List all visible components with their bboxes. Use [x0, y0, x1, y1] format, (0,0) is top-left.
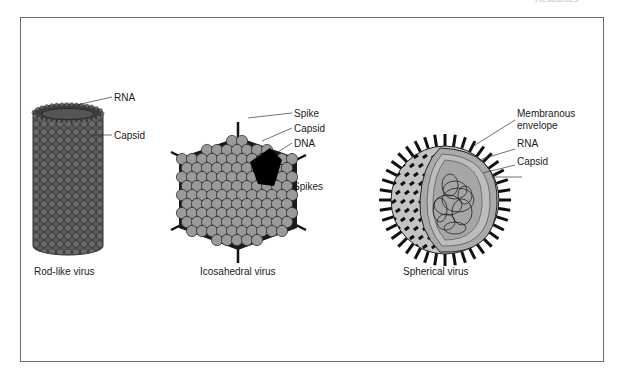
- ico-caption: Icosahedral virus: [200, 266, 276, 277]
- sph-caption: Spherical virus: [403, 266, 469, 277]
- sph-label-capsid: Capsid: [517, 156, 548, 167]
- sph-label-membranous: Membranous: [517, 108, 575, 119]
- icosahedral-virus-icon: [171, 113, 306, 263]
- spherical-virus-icon: [379, 120, 522, 266]
- sph-label-envelope: envelope: [517, 120, 558, 131]
- ico-label-dna: DNA: [294, 138, 315, 149]
- sph-label-rna: RNA: [517, 138, 538, 149]
- ico-label-spike: Spike: [294, 108, 319, 119]
- rod-caption: Rod-like virus: [34, 266, 95, 277]
- rod-label-rna: RNA: [114, 92, 135, 103]
- ico-label-capsid: Capsid: [294, 123, 325, 134]
- rod-virus-icon: [33, 97, 112, 255]
- rod-label-capsid: Capsid: [114, 130, 145, 141]
- ico-label-spikes: Spikes: [293, 181, 323, 192]
